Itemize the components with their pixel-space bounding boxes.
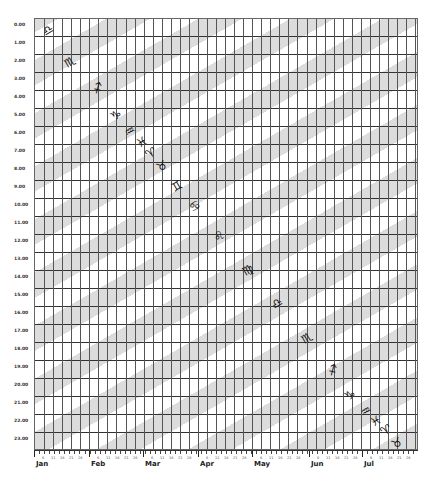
- y-tick-label: 20.00: [14, 382, 34, 387]
- day-tick-label: 21: [344, 456, 348, 460]
- month-label-feb: Feb: [91, 460, 105, 468]
- day-tick-label: 26: [242, 456, 246, 460]
- day-tick-label: 16: [60, 456, 64, 460]
- x-tick: [312, 451, 313, 454]
- x-tick: [342, 451, 343, 454]
- x-tick: [191, 451, 192, 454]
- x-tick: [54, 451, 55, 454]
- x-tick: [246, 451, 247, 454]
- y-tick-label: 5.00: [14, 112, 34, 117]
- grid-vline: [243, 19, 244, 449]
- x-tick: [271, 451, 272, 454]
- day-tick-label: 16: [224, 456, 228, 460]
- day-tick-label: 11: [51, 456, 55, 460]
- x-tick: [403, 451, 404, 454]
- day-tick-label: 11: [160, 456, 164, 460]
- x-tick: [276, 451, 277, 454]
- y-tick-label: 14.00: [14, 274, 34, 279]
- y-tick-label: 16.00: [14, 310, 34, 315]
- grid-vline: [297, 19, 298, 449]
- x-tick: [408, 451, 409, 454]
- grid-vline: [343, 19, 344, 449]
- grid-vline: [406, 19, 407, 449]
- month-label-jun: Jun: [311, 460, 324, 468]
- x-tick: [175, 451, 176, 454]
- x-tick: [95, 451, 96, 454]
- month-label-apr: Apr: [200, 460, 214, 468]
- x-tick: [322, 451, 323, 454]
- x-tick: [105, 451, 106, 454]
- grid-vline: [198, 19, 199, 449]
- day-tick-label: 11: [106, 456, 110, 460]
- x-tick: [377, 451, 378, 454]
- zodiac-time-chart: 0.001.002.003.004.005.006.007.008.009.00…: [0, 0, 433, 482]
- x-tick: [64, 451, 65, 454]
- grid-vline: [80, 19, 81, 449]
- grid-vline: [279, 19, 280, 449]
- x-tick: [160, 451, 161, 454]
- grid-vline: [53, 19, 54, 449]
- x-tick: [367, 451, 368, 454]
- x-tick: [337, 451, 338, 454]
- grid-vline: [153, 19, 154, 449]
- x-tick: [241, 451, 242, 454]
- month-tick: [34, 451, 35, 457]
- x-tick: [201, 451, 202, 454]
- day-tick-label: 26: [187, 456, 191, 460]
- x-tick: [170, 451, 171, 454]
- month-tick: [89, 451, 90, 457]
- x-tick: [120, 451, 121, 454]
- grid-vline: [116, 19, 117, 449]
- month-tick: [198, 451, 199, 457]
- grid-vline: [316, 19, 317, 449]
- day-tick-label: 16: [335, 456, 339, 460]
- day-tick-label: 26: [133, 456, 137, 460]
- day-tick-label: 26: [296, 456, 300, 460]
- x-tick: [352, 451, 353, 454]
- x-tick: [332, 451, 333, 454]
- x-tick: [266, 451, 267, 454]
- grid-vline: [361, 19, 362, 449]
- grid-vline: [71, 19, 72, 449]
- day-tick-label: 16: [278, 456, 282, 460]
- month-tick: [143, 451, 144, 457]
- x-tick: [145, 451, 146, 454]
- x-tick: [287, 451, 288, 454]
- y-tick-label: 21.00: [14, 400, 34, 405]
- x-tick: [115, 451, 116, 454]
- y-tick-label: 1.00: [14, 40, 34, 45]
- x-tick: [372, 451, 373, 454]
- y-tick-label: 9.00: [14, 184, 34, 189]
- y-tick-label: 15.00: [14, 292, 34, 297]
- y-tick-label: 17.00: [14, 328, 34, 333]
- y-tick-label: 3.00: [14, 76, 34, 81]
- day-tick-label: 11: [215, 456, 219, 460]
- x-tick: [398, 451, 399, 454]
- grid-vline: [388, 19, 389, 449]
- day-tick-label: 16: [115, 456, 119, 460]
- x-tick: [256, 451, 257, 454]
- x-tick: [180, 451, 181, 454]
- grid-vline: [370, 19, 371, 449]
- grid-vline: [162, 19, 163, 449]
- y-tick-label: 7.00: [14, 148, 34, 153]
- y-tick-label: 23.00: [14, 436, 34, 441]
- x-tick: [317, 451, 318, 454]
- x-tick: [85, 451, 86, 454]
- grid-vline: [397, 19, 398, 449]
- month-label-mar: Mar: [145, 460, 160, 468]
- y-tick-label: 8.00: [14, 166, 34, 171]
- grid-vline: [126, 19, 127, 449]
- grid-vline: [225, 19, 226, 449]
- x-tick: [297, 451, 298, 454]
- grid-vline: [415, 19, 416, 449]
- y-tick-label: 2.00: [14, 58, 34, 63]
- x-tick: [39, 451, 40, 454]
- x-axis: 6111621266111621266111621266111621266111…: [34, 450, 418, 459]
- x-tick: [74, 451, 75, 454]
- x-tick: [125, 451, 126, 454]
- x-tick: [100, 451, 101, 454]
- grid-vline: [144, 19, 145, 449]
- x-tick: [49, 451, 50, 454]
- x-tick: [307, 451, 308, 454]
